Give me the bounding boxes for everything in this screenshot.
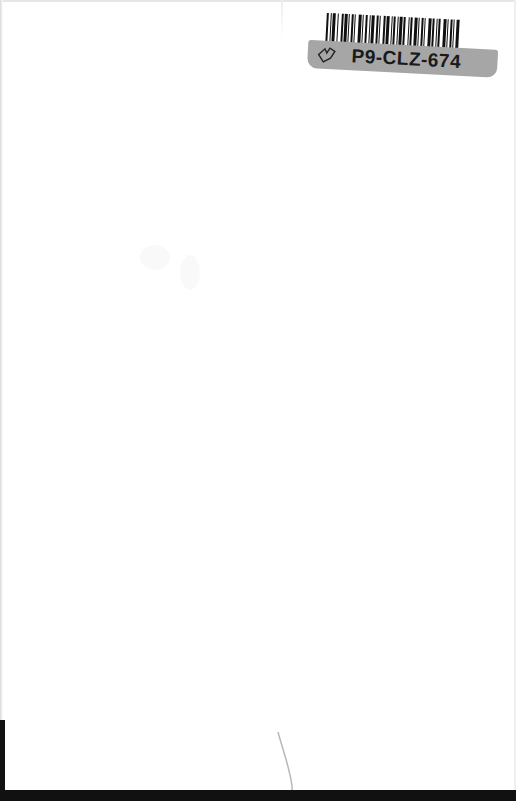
- page-top-edge: [0, 0, 516, 2]
- scan-border-left: [0, 720, 5, 801]
- heart-outline-icon: [315, 45, 338, 64]
- barcode-sticker: P9-CLZ-674: [307, 10, 502, 82]
- scanned-page: P9-CLZ-674: [0, 0, 516, 801]
- scan-smudge: [140, 245, 170, 270]
- page-left-edge: [0, 0, 3, 801]
- fold-crease: [281, 0, 283, 40]
- scan-border-bottom: [0, 790, 516, 801]
- scan-smudge: [180, 255, 200, 290]
- sticker-code: P9-CLZ-674: [351, 45, 462, 73]
